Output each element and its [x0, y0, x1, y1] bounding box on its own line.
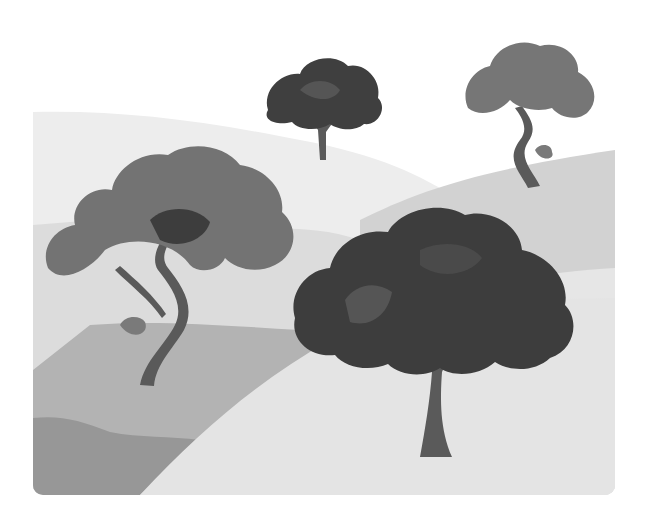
scene-frame: [33, 42, 615, 495]
landscape-illustration: [0, 0, 647, 527]
